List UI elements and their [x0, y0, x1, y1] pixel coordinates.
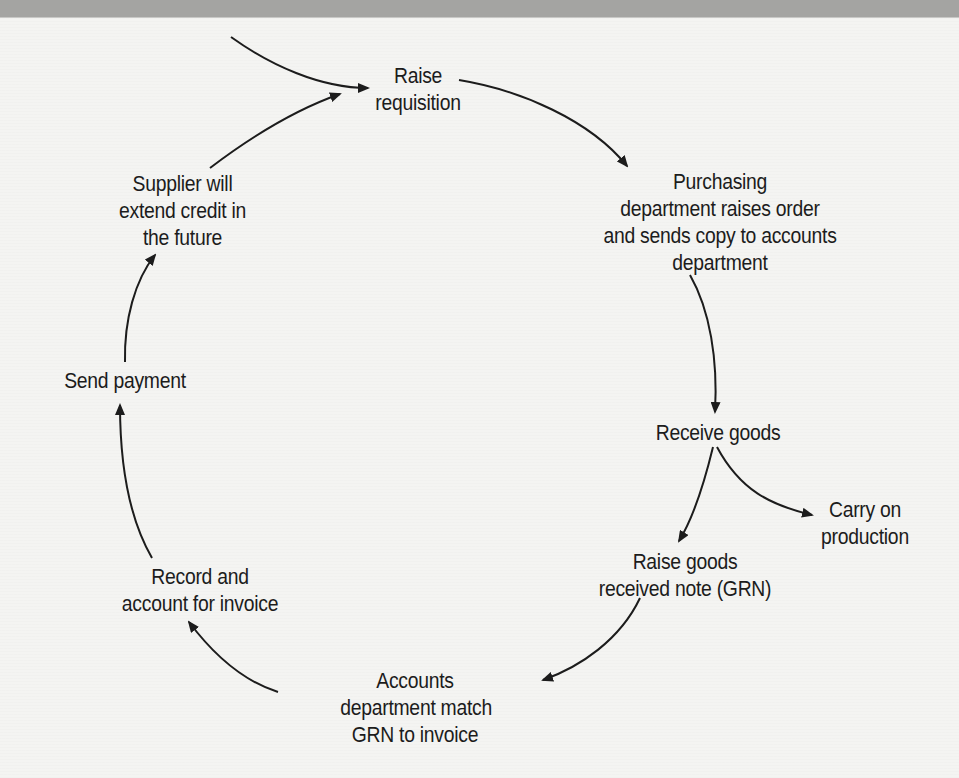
arrow-entry-to-requisition — [231, 37, 368, 88]
node-carry-on-production: Carry on production — [808, 496, 922, 550]
node-receive-goods: Receive goods — [639, 419, 797, 446]
arrow-supplier-to-requisition — [210, 94, 340, 168]
arrow-receive-to-grn — [679, 447, 713, 541]
arrow-send-to-supplier — [125, 255, 155, 362]
node-raise-requisition: Raise requisition — [365, 62, 471, 116]
arrow-purchasing-to-receive — [690, 275, 716, 412]
arrow-record-to-send — [120, 405, 152, 558]
arrow-accounts-to-record — [189, 622, 278, 692]
node-supplier-credit: Supplier will extend credit in the futur… — [110, 170, 255, 251]
arrow-grn-to-accounts — [543, 598, 640, 680]
node-raise-grn: Raise goods received note (GRN) — [593, 548, 778, 602]
node-purchasing-raises-order: Purchasing department raises order and s… — [579, 168, 861, 276]
node-accounts-match-grn: Accounts department match GRN to invoice — [340, 667, 490, 748]
arrow-requisition-to-purchasing — [459, 80, 627, 166]
arrow-receive-to-production — [717, 447, 812, 515]
node-send-payment: Send payment — [50, 367, 200, 394]
node-record-invoice: Record and account for invoice — [108, 563, 293, 617]
